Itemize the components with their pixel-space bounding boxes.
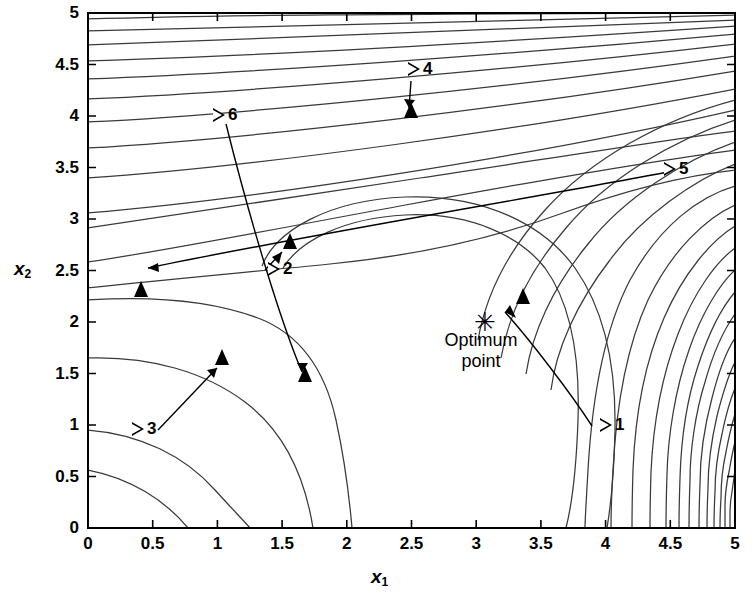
callout-label-1: 1 — [615, 415, 624, 434]
y-axis-title: x2 — [14, 258, 31, 281]
ytick-6: 3 — [33, 209, 79, 229]
xtick-6: 3 — [454, 534, 498, 554]
ytick-0: 0 — [33, 518, 79, 538]
plot-canvas — [0, 0, 754, 603]
callout-triangle-icon — [213, 108, 226, 121]
optimum-label-line2: point — [406, 351, 556, 372]
x-axis-title-sub: 1 — [382, 575, 389, 589]
callout-1: 1 — [600, 415, 624, 435]
ytick-10: 5 — [33, 3, 79, 23]
callout-triangle-icon — [408, 62, 421, 75]
optimum-label-line1: Optimum — [406, 330, 556, 351]
plot-frame — [88, 13, 735, 528]
callout-label-4: 4 — [423, 59, 432, 78]
iterate-marker-4 — [404, 102, 418, 118]
ytick-7: 3.5 — [33, 158, 79, 178]
callout-label-3: 3 — [147, 419, 156, 438]
callout-3: 3 — [132, 419, 156, 439]
callout-label-6: 6 — [228, 105, 237, 124]
callout-4: 4 — [408, 59, 432, 79]
xtick-9: 4.5 — [648, 534, 692, 554]
xtick-1: 0.5 — [131, 534, 175, 554]
y-axis-title-text: x — [14, 258, 25, 279]
y-axis-title-sub: 2 — [25, 267, 32, 281]
xtick-10: 5 — [713, 534, 754, 554]
ytick-1: 0.5 — [33, 467, 79, 487]
callout-5: 5 — [664, 159, 688, 179]
callout-triangle-icon — [664, 162, 677, 175]
xtick-4: 2 — [325, 534, 369, 554]
leader-line-3 — [158, 368, 217, 430]
callout-2: 2 — [268, 259, 292, 279]
optimum-point-label: Optimum point — [406, 330, 556, 372]
xtick-7: 3.5 — [519, 534, 563, 554]
xtick-8: 4 — [584, 534, 628, 554]
callout-triangle-icon — [268, 262, 281, 275]
callout-triangle-icon — [600, 418, 613, 431]
axis-ticks — [88, 13, 735, 528]
ytick-2: 1 — [33, 415, 79, 435]
callout-leader-lines — [148, 81, 668, 430]
iterate-marker-3 — [215, 349, 229, 365]
ytick-5: 2.5 — [33, 261, 79, 281]
ytick-9: 4.5 — [33, 55, 79, 75]
iterate-marker-1 — [516, 288, 530, 304]
x-axis-title-text: x — [371, 566, 382, 587]
callout-6: 6 — [213, 105, 237, 125]
ytick-8: 4 — [33, 106, 79, 126]
x-axis-title: x1 — [371, 566, 388, 589]
optimum-point-asterisk-icon: ✳ — [474, 317, 496, 327]
xtick-3: 1.5 — [260, 534, 304, 554]
callout-triangle-icon — [132, 422, 145, 435]
contour-lines — [88, 13, 735, 528]
ytick-4: 2 — [33, 312, 79, 332]
callout-label-2: 2 — [283, 259, 292, 278]
callout-label-5: 5 — [679, 159, 688, 178]
xtick-5: 2.5 — [390, 534, 434, 554]
xtick-2: 1 — [195, 534, 239, 554]
ytick-3: 1.5 — [33, 364, 79, 384]
contour-plot-figure: 0 0.5 1 1.5 2 2.5 3 3.5 4 4.5 5 0 0.5 1 … — [0, 0, 754, 603]
